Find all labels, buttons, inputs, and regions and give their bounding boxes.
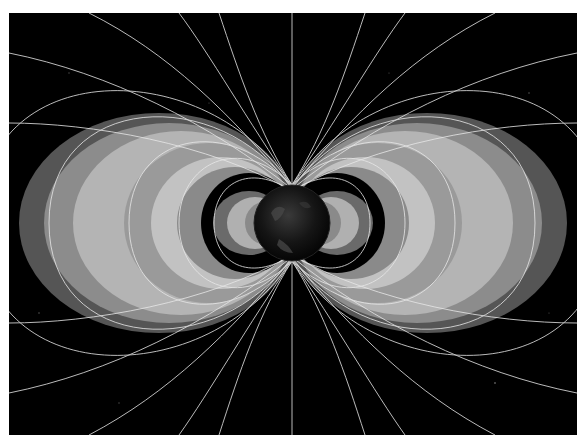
earth (254, 185, 330, 261)
radiation-belts-illustration (9, 13, 577, 435)
illustration-frame (9, 13, 577, 435)
